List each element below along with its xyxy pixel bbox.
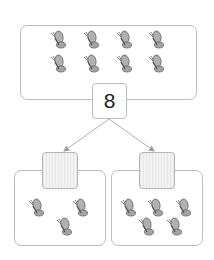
whole-number: 8	[92, 83, 127, 119]
butterfly-icon	[146, 53, 165, 74]
butterfly-icon	[136, 216, 155, 237]
butterfly-icon	[118, 197, 137, 218]
butterfly-icon	[54, 216, 73, 237]
butterfly-icon	[26, 197, 45, 218]
butterfly-icon	[114, 53, 133, 74]
butterfly-icon	[81, 53, 100, 74]
butterfly-icon	[48, 29, 67, 50]
butterfly-icon	[114, 29, 133, 50]
butterfly-icon	[48, 53, 67, 74]
butterfly-icon	[173, 197, 192, 218]
butterfly-icon	[81, 29, 100, 50]
butterfly-icon	[146, 29, 165, 50]
part-answer-right[interactable]	[139, 152, 175, 189]
butterfly-icon	[164, 216, 183, 237]
butterfly-icon	[145, 197, 164, 218]
part-answer-left[interactable]	[42, 152, 78, 189]
butterfly-icon	[70, 197, 89, 218]
whole-value: 8	[104, 89, 116, 113]
